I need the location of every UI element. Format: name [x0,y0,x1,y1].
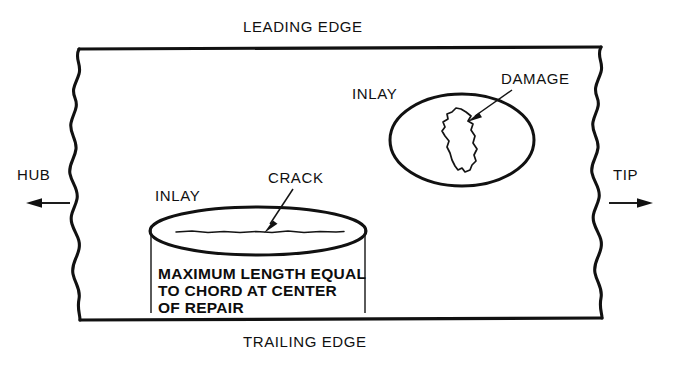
blade-repair-diagram: LEADING EDGE TRAILING EDGE HUB TIP INLAY… [0,0,673,384]
blade-hub-break-line [70,49,80,320]
damage-blob-shape [442,108,477,172]
upper-inlay-label: INLAY [352,85,397,102]
crack-line-shape [176,231,344,233]
diagram-canvas: LEADING EDGE TRAILING EDGE HUB TIP INLAY… [0,0,673,384]
tip-label: TIP [613,166,638,183]
dimension-note-line-2: TO CHORD AT CENTER [158,282,337,299]
crack-leader-arrow-icon [264,189,293,233]
lower-inlay-label: INLAY [155,187,200,204]
arrow-left-icon [26,198,70,208]
crack-label: CRACK [268,169,324,186]
hub-label: HUB [17,166,50,183]
dimension-note-line-3: OF REPAIR [158,299,244,316]
blade-tip-break-line [592,47,602,318]
arrow-right-icon [609,198,653,208]
upper-inlay-ellipse [390,94,534,186]
blade-trailing-edge-line [80,318,602,320]
dimension-note-line-1: MAXIMUM LENGTH EQUAL [158,265,366,282]
damage-label: DAMAGE [501,70,570,87]
leading-edge-label: LEADING EDGE [243,18,363,35]
blade-leading-edge-line [79,47,601,49]
trailing-edge-label: TRAILING EDGE [243,333,367,350]
